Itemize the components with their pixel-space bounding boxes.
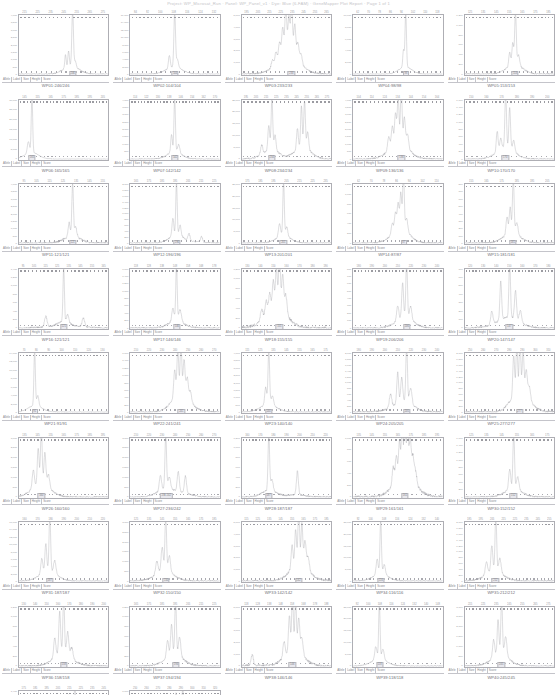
y-axis-tick-labels: 16,00014,00012,00010,0008,0006,0004,0002… bbox=[2, 521, 18, 583]
electropherogram-panel[interactable]: 1601701801902002102201,2001,000800600400… bbox=[223, 432, 334, 517]
plot-area[interactable]: 201 bbox=[241, 183, 332, 245]
size-call-label: 160 bbox=[38, 493, 45, 498]
electropherogram-panel[interactable]: 1151251351451551651751855,0004,0003,0002… bbox=[223, 516, 334, 601]
electropherogram-panel[interactable]: 2502602702802903003103201,6001,4001,2001… bbox=[111, 685, 222, 695]
electropherogram-panel[interactable]: 2152252352452552652754,0003,5003,0002,50… bbox=[0, 9, 111, 94]
electropherogram-panel[interactable]: 2102202302402502602701,6001,4001,2001,00… bbox=[111, 347, 222, 432]
plot-area[interactable]: 194 bbox=[129, 606, 220, 668]
sample-id-label: WP28:187/187 bbox=[225, 506, 332, 512]
plot-area[interactable]: 155 bbox=[241, 268, 332, 330]
plot-area[interactable]: 146 bbox=[241, 606, 332, 668]
plot-area[interactable]: 104 bbox=[129, 14, 220, 76]
sample-id-label: WP24:205/205 bbox=[336, 421, 443, 427]
plot-area[interactable]: 160 bbox=[18, 437, 109, 499]
plot-area[interactable]: 136 bbox=[352, 99, 443, 161]
plot-area[interactable]: 281 bbox=[129, 690, 220, 695]
plot-area[interactable]: 152 bbox=[464, 437, 555, 499]
electropherogram-panel[interactable]: 2102202302402502602703,0002,5002,0001,50… bbox=[111, 432, 222, 517]
electropherogram-panel[interactable]: 951051151251351451554,0003,5003,0002,500… bbox=[0, 178, 111, 263]
plot-area[interactable]: 121 bbox=[18, 183, 109, 245]
plot-area[interactable]: 187 bbox=[241, 437, 332, 499]
plot-area[interactable]: 153 bbox=[464, 14, 555, 76]
plot-area[interactable]: 150 bbox=[129, 521, 220, 583]
y-axis-tick-label: 1,500 bbox=[345, 135, 351, 138]
electropherogram-panel[interactable]: 2502602702802903003102,0001,8001,6001,40… bbox=[446, 347, 557, 432]
plot-area[interactable]: 206 bbox=[352, 268, 443, 330]
electropherogram-panel[interactable]: 2152252352452552652753,0002,5002,0001,50… bbox=[446, 601, 557, 686]
plot-area[interactable]: 140 bbox=[241, 352, 332, 414]
electropherogram-panel[interactable]: 1801902002102202302402,0001,8001,6001,40… bbox=[334, 347, 445, 432]
trace-svg bbox=[19, 15, 108, 75]
plot-area[interactable]: 246 bbox=[18, 14, 109, 76]
plot-area[interactable]: 241 bbox=[129, 352, 220, 414]
electropherogram-panel[interactable]: 1201301401501601701807006005004003002001… bbox=[446, 263, 557, 348]
electropherogram-panel[interactable]: 9210010811612413214025,00020,00015,00010… bbox=[334, 516, 445, 601]
electropherogram-panel[interactable]: 1751851952052152252352451,4001,2001,0008… bbox=[0, 685, 111, 695]
plot-area[interactable]: 277 bbox=[464, 352, 555, 414]
electropherogram-panel[interactable]: 17518519520521522523525,00020,00015,0001… bbox=[223, 178, 334, 263]
plot-area[interactable]: 212 bbox=[464, 521, 555, 583]
electropherogram-panel[interactable]: 1801902002102202302408007006005004003002… bbox=[334, 263, 445, 348]
electropherogram-panel[interactable]: 1301401501601701801902001,2001,000800600… bbox=[0, 601, 111, 686]
electropherogram-panel[interactable]: 1351451551651751851953,0002,5002,0001,50… bbox=[0, 432, 111, 517]
electropherogram-panel[interactable]: 1952052152252352452552655,0004,0003,0002… bbox=[223, 9, 334, 94]
plot-body: 3,0002,5002,0001,5001,0005000160 bbox=[2, 437, 109, 499]
electropherogram-panel[interactable]: 1301401501601701801901,2001,000800600400… bbox=[223, 263, 334, 348]
electropherogram-panel[interactable]: 16017018019020021022016,00014,00012,0001… bbox=[0, 516, 111, 601]
plot-area[interactable]: 170 bbox=[464, 99, 555, 161]
plot-area[interactable]: 196 bbox=[129, 183, 220, 245]
electropherogram-panel[interactable]: 1351451551651751851951,00080060040020001… bbox=[334, 432, 445, 517]
plot-area[interactable]: 234 bbox=[241, 99, 332, 161]
electropherogram-panel[interactable]: 1251351451551651751851,2001,000800600400… bbox=[446, 9, 557, 94]
peak-table-column-header: Label bbox=[346, 415, 356, 420]
sample-id-label: WP21:91/91 bbox=[2, 421, 109, 427]
plot-area[interactable]: 158 bbox=[18, 606, 109, 668]
plot-area[interactable]: 236 242 bbox=[129, 437, 220, 499]
sample-id-label: WP12:196/196 bbox=[113, 252, 220, 258]
plot-area[interactable]: 146 bbox=[129, 268, 220, 330]
electropherogram-panel[interactable]: 1041141241341441541644,0003,5003,0002,50… bbox=[334, 94, 445, 179]
electropherogram-panel[interactable]: 1651751851952052152252,0001,8001,6001,40… bbox=[111, 178, 222, 263]
y-axis-tick-label: 2,000 bbox=[122, 66, 128, 69]
plot-area[interactable]: 116 bbox=[352, 521, 443, 583]
plot-area[interactable]: 118 bbox=[352, 606, 443, 668]
electropherogram-panel[interactable]: 1551651751851952058007006005004003002001… bbox=[446, 178, 557, 263]
electropherogram-panel[interactable]: 1181281381481581681781,6001,4001,2001,00… bbox=[111, 263, 222, 348]
electropherogram-panel[interactable]: 9210010811612413214014825,00020,00015,00… bbox=[334, 601, 445, 686]
plot-body: 5,0004,0003,0002,0001,0000142 bbox=[225, 521, 332, 583]
electropherogram-panel[interactable]: 1181281381481581681781885,0004,0003,0002… bbox=[223, 601, 334, 686]
plot-area[interactable]: 205 bbox=[352, 352, 443, 414]
plot-area[interactable]: 233 bbox=[241, 14, 332, 76]
plot-area[interactable]: 161 bbox=[352, 437, 443, 499]
electropherogram-panel[interactable]: 1251351451551651751,6001,4001,2001,00080… bbox=[446, 432, 557, 517]
plot-area[interactable]: 121 bbox=[18, 268, 109, 330]
electropherogram-panel[interactable]: 627078869410211011810,0008,0006,0004,000… bbox=[334, 9, 445, 94]
plot-area[interactable]: 142 bbox=[241, 521, 332, 583]
electropherogram-panel[interactable]: 849210010811612413216,00014,00012,00010,… bbox=[111, 9, 222, 94]
peak-table-column-header: Height bbox=[31, 246, 42, 251]
trace-svg bbox=[465, 184, 554, 244]
plot-area[interactable]: 91 bbox=[18, 352, 109, 414]
plot-area[interactable]: 206 bbox=[18, 690, 109, 695]
electropherogram-panel[interactable]: 1141221301381461541621704,0003,5003,0002… bbox=[111, 94, 222, 179]
electropherogram-panel[interactable]: 1651751851952052152251,2001,000800600400… bbox=[111, 601, 222, 686]
electropherogram-panel[interactable]: 1501601701801902001,6001,4001,2001,00080… bbox=[446, 94, 557, 179]
plot-area[interactable]: 187 bbox=[18, 521, 109, 583]
electropherogram-panel[interactable]: 1251351451551651751853,0002,5002,0001,50… bbox=[111, 516, 222, 601]
plot-area[interactable]: 165 bbox=[18, 99, 109, 161]
plot-body: 1,2001,0008006004002000187 bbox=[225, 437, 332, 499]
plot-area[interactable]: 245 bbox=[464, 606, 555, 668]
plot-area[interactable]: 98 bbox=[352, 14, 443, 76]
electropherogram-panel[interactable]: 951051151251351451551651,4001,2001,00080… bbox=[0, 263, 111, 348]
electropherogram-panel[interactable]: 62707886941021101,2001,00080060040020008… bbox=[334, 178, 445, 263]
electropherogram-panel[interactable]: 14515516517518519520530,00025,00020,0001… bbox=[0, 94, 111, 179]
electropherogram-panel[interactable]: 70809010011012013014,00012,00010,0008,00… bbox=[0, 347, 111, 432]
peak-table-column-header: Allele bbox=[113, 415, 123, 420]
electropherogram-panel[interactable]: 1151251351451551651754,0003,5003,0002,50… bbox=[223, 347, 334, 432]
plot-area[interactable]: 142 bbox=[129, 99, 220, 161]
plot-area[interactable]: 147 bbox=[464, 268, 555, 330]
plot-area[interactable]: 181 bbox=[464, 183, 555, 245]
electropherogram-panel[interactable]: 1851952052152252352452552,0001,8001,6001… bbox=[446, 516, 557, 601]
electropherogram-panel[interactable]: 19520521522523524525526527525,00020,0001… bbox=[223, 94, 334, 179]
plot-area[interactable]: 87 bbox=[352, 183, 443, 245]
